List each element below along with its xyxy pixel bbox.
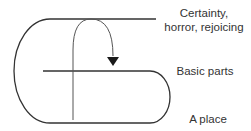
arrow-path (73, 19, 113, 120)
arrowhead-icon (107, 57, 119, 66)
loop-path (14, 19, 170, 123)
label-top: Certainty, horror, rejoicing (158, 6, 250, 34)
label-bottom: A place (178, 112, 238, 126)
label-middle: Basic parts (168, 64, 242, 78)
